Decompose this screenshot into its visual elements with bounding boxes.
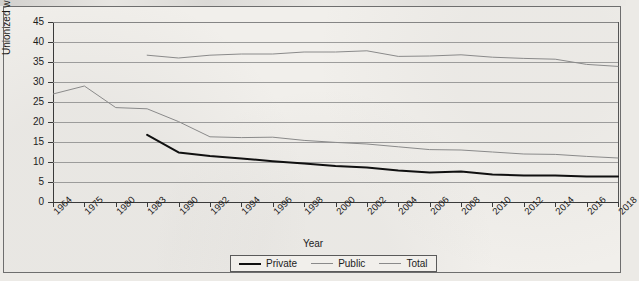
- legend-item-private[interactable]: Private: [239, 259, 297, 269]
- y-axis-tick-label: 20: [24, 117, 44, 127]
- chart-frame: Unionized workers (%) 454035302520151050…: [3, 6, 621, 273]
- legend-label: Public: [338, 259, 365, 269]
- y-axis-tick-label: 25: [24, 97, 44, 107]
- y-axis-tick-label: 5: [24, 177, 44, 187]
- x-axis-label: Year: [4, 238, 622, 249]
- y-axis-tick-label: 10: [24, 157, 44, 167]
- series-line-private: [147, 135, 618, 177]
- series-line-public: [147, 51, 618, 67]
- y-axis-tick-label: 35: [24, 57, 44, 67]
- chart-legend: PrivatePublicTotal: [230, 255, 437, 272]
- legend-item-public[interactable]: Public: [311, 259, 365, 269]
- legend-label: Total: [406, 259, 427, 269]
- legend-item-total[interactable]: Total: [379, 259, 427, 269]
- x-axis-tick-label: 2018: [616, 194, 639, 217]
- y-axis-tick-label: 15: [24, 137, 44, 147]
- y-axis-tick-label: 45: [24, 17, 44, 27]
- y-axis-tick-label: 40: [24, 37, 44, 47]
- legend-swatch-private: [239, 263, 261, 265]
- series-line-total: [53, 86, 618, 158]
- y-axis-label: Unionized workers (%): [1, 0, 12, 55]
- y-axis-tick-label: 0: [24, 197, 44, 207]
- legend-swatch-total: [379, 263, 401, 264]
- series-lines: [53, 22, 619, 204]
- legend-swatch-public: [311, 263, 333, 264]
- y-axis-tick-label: 30: [24, 77, 44, 87]
- legend-label: Private: [266, 259, 297, 269]
